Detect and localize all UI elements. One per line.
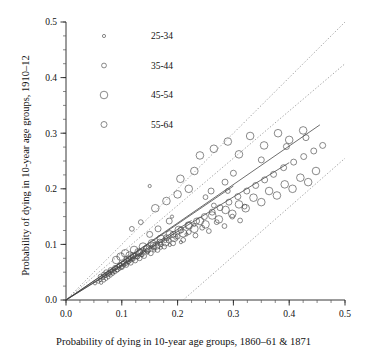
data-point	[181, 238, 186, 243]
data-point	[170, 215, 173, 218]
y-axis-tick-label: 0.1	[45, 240, 57, 250]
data-point	[202, 221, 210, 229]
data-point	[174, 191, 182, 199]
y-axis-tick-label: 0.5	[45, 17, 57, 27]
series-25-34	[93, 184, 196, 285]
data-point	[311, 148, 317, 154]
data-point	[320, 142, 326, 148]
legend-label-25-34: 25-34	[151, 31, 173, 41]
regression-line-55-64	[66, 163, 289, 300]
data-point	[258, 198, 266, 206]
y-axis-tick-label: 0.3	[45, 129, 57, 139]
data-point	[291, 159, 297, 165]
y-axis-label: Probability of dying in 10-year age grou…	[20, 1, 31, 331]
data-point	[211, 203, 216, 208]
data-point	[208, 188, 214, 194]
legend-marker-35-44	[102, 63, 107, 68]
data-point	[274, 129, 282, 137]
data-point	[166, 218, 172, 224]
data-point	[177, 175, 185, 183]
data-point	[258, 157, 264, 163]
scatter-plot-figure: 0.00.10.20.30.40.50.00.10.20.30.40.525-3…	[0, 0, 367, 357]
data-point	[222, 224, 227, 229]
data-point	[100, 281, 103, 284]
data-point	[155, 226, 161, 232]
data-point	[265, 187, 273, 195]
x-axis-label: Probability of dying in 10-year age grou…	[0, 336, 367, 347]
data-point	[191, 167, 199, 175]
x-axis-tick-label: 0.1	[116, 309, 128, 319]
series-45-54	[112, 127, 319, 264]
reference-line-mid-dotted-band	[66, 64, 345, 300]
data-point	[260, 142, 268, 150]
data-point	[196, 152, 204, 160]
data-point	[238, 218, 243, 223]
data-point	[102, 279, 105, 282]
reference-line-upper-dotted-band	[66, 22, 345, 300]
legend-label-45-54: 45-54	[151, 90, 173, 100]
data-point	[246, 132, 254, 140]
legend-marker-55-64	[101, 122, 107, 128]
data-point	[285, 136, 293, 144]
data-point	[281, 181, 289, 189]
data-point	[185, 222, 193, 230]
data-point	[301, 154, 307, 160]
data-point	[250, 194, 258, 202]
data-point	[222, 179, 228, 185]
legend-marker-25-34	[102, 34, 105, 37]
data-point	[289, 185, 297, 193]
data-point	[210, 145, 218, 153]
legend-label-55-64: 55-64	[151, 120, 173, 130]
legend-label-35-44: 35-44	[151, 61, 173, 71]
x-axis-tick-label: 0.5	[339, 309, 351, 319]
data-point	[273, 192, 281, 200]
x-axis-tick-label: 0.3	[227, 309, 239, 319]
data-point	[312, 167, 320, 175]
data-point	[203, 195, 208, 200]
data-point	[129, 226, 134, 231]
data-point	[230, 214, 235, 219]
data-point	[105, 277, 108, 280]
x-axis-tick-label: 0.4	[283, 309, 295, 319]
data-point	[148, 184, 151, 187]
y-axis-tick-label: 0.2	[45, 184, 57, 194]
data-point	[185, 185, 193, 193]
data-point	[138, 220, 143, 225]
data-point	[297, 174, 305, 182]
y-axis-tick-label: 0.4	[45, 73, 57, 83]
data-point	[304, 178, 312, 186]
data-point	[193, 233, 198, 238]
data-point	[228, 210, 236, 218]
x-axis-tick-label: 0.0	[60, 309, 72, 319]
data-point	[303, 135, 309, 141]
data-point	[235, 151, 243, 159]
y-axis-tick-label: 0.0	[45, 295, 57, 305]
data-point	[206, 229, 211, 234]
data-point	[163, 197, 171, 205]
x-axis-tick-label: 0.2	[172, 309, 184, 319]
legend-marker-45-54	[100, 91, 108, 99]
plot-canvas: 0.00.10.20.30.40.50.00.10.20.30.40.525-3…	[0, 0, 367, 357]
data-point	[147, 231, 153, 237]
series-55-64	[124, 135, 325, 262]
data-point	[230, 170, 236, 176]
data-point	[299, 127, 307, 135]
data-point	[235, 201, 243, 209]
